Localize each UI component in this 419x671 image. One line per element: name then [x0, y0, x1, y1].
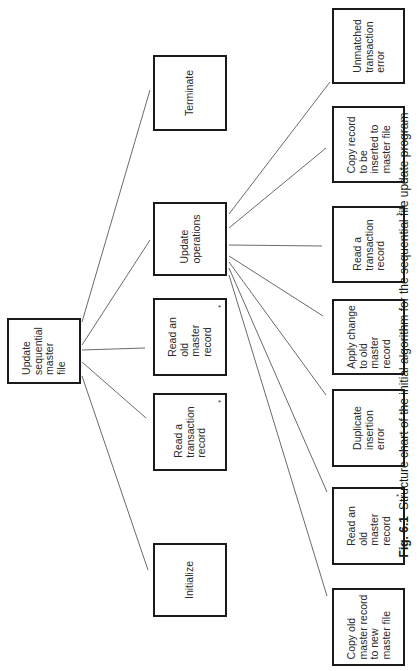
- box-label: Apply change to old master record: [346, 305, 392, 369]
- box-read-transaction-record-2: * Read a transaction record: [332, 206, 405, 283]
- root-box-update-sequential-master-file: Update sequential master file: [7, 318, 81, 384]
- structure-chart: Update sequential master file Initialize…: [0, 0, 419, 671]
- box-label: Initialize: [184, 561, 196, 599]
- iteration-marker: *: [218, 398, 221, 407]
- box-label: Read a transaction record: [351, 219, 386, 270]
- root-label: Update sequential master file: [21, 327, 67, 375]
- box-update-operations: Update operations: [153, 202, 227, 276]
- box-label: Read an old master record: [346, 506, 392, 546]
- box-label: Copy record to be inserted to master fil…: [346, 116, 392, 173]
- box-label: Unmatched transaction error: [351, 19, 386, 73]
- box-copy-record-to-be-inserted: Copy record to be inserted to master fil…: [332, 106, 405, 183]
- box-label: Read a transaction record: [173, 406, 208, 457]
- iteration-marker: *: [218, 303, 221, 312]
- caption-text: Structure chart of the initial algorithm…: [397, 113, 411, 511]
- box-unmatched-transaction-error: Unmatched transaction error: [332, 8, 405, 84]
- figure-number: Fig. 6.1: [397, 516, 411, 557]
- box-read-old-master-record: * Read an old master record: [153, 298, 227, 376]
- box-terminate: Terminate: [153, 55, 227, 131]
- box-copy-old-master-record: Copy old master record to new master fil…: [332, 588, 405, 666]
- figure-caption: Fig. 6.1Structure chart of the initial a…: [397, 113, 411, 558]
- box-apply-change: Apply change to old master record: [332, 299, 405, 375]
- box-read-old-master-record-2: * Read an old master record: [332, 487, 405, 565]
- box-duplicate-insertion-error: Duplicate insertion error: [332, 389, 405, 467]
- box-initialize: Initialize: [153, 543, 227, 617]
- box-label: Read an old master record: [167, 317, 213, 357]
- box-label: Copy old master record to new master fil…: [346, 595, 392, 660]
- box-label: Update operations: [179, 214, 202, 263]
- box-label: Terminate: [184, 70, 196, 116]
- box-label: Duplicate insertion error: [351, 406, 386, 450]
- box-read-transaction-record: * Read a transaction record: [153, 393, 227, 471]
